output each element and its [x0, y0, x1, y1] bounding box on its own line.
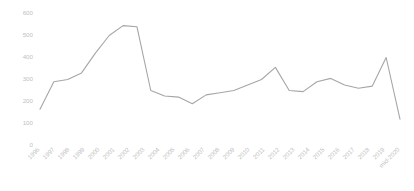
x-axis-tick-label: 2013 — [281, 145, 296, 160]
x-axis-tick-label: 1996 — [26, 145, 41, 160]
chart-canvas: 0100200300400500600 19961997199819992000… — [0, 0, 414, 191]
x-axis-tick-label: 1999 — [71, 145, 86, 160]
series-line — [40, 26, 400, 120]
x-axis-tick-label: 2002 — [116, 145, 131, 160]
x-axis-tick-label: 2005 — [161, 145, 176, 160]
x-axis-tick-label: 2003 — [131, 145, 146, 160]
y-axis: 0100200300400500600 — [23, 9, 34, 148]
x-axis-tick-label: 2007 — [191, 145, 206, 160]
y-axis-tick-label: 400 — [23, 53, 34, 60]
y-axis-tick-label: 0 — [30, 141, 34, 148]
y-axis-tick-label: 300 — [23, 75, 34, 82]
x-axis-tick-label: 2015 — [311, 145, 326, 160]
y-axis-tick-label: 200 — [23, 97, 34, 104]
x-axis: 1996199719981999200020012002200320042005… — [26, 145, 401, 169]
x-axis-tick-label: 2016 — [326, 145, 341, 160]
x-axis-tick-label: 2018 — [356, 145, 371, 160]
x-axis-tick-label: 1998 — [56, 145, 71, 160]
x-axis-tick-label: 2011 — [251, 145, 266, 160]
line-chart: 0100200300400500600 19961997199819992000… — [0, 0, 414, 191]
y-axis-tick-label: 600 — [23, 9, 34, 16]
x-axis-tick-label: 2010 — [236, 145, 251, 160]
x-axis-tick-label: 2012 — [266, 145, 281, 160]
x-axis-tick-label: 2014 — [296, 145, 311, 160]
x-axis-tick-label: 1997 — [41, 145, 56, 160]
x-axis-tick-label: 2004 — [146, 145, 161, 160]
x-axis-tick-label: 2017 — [341, 145, 356, 160]
x-axis-tick-label: 2008 — [206, 145, 221, 160]
y-axis-tick-label: 100 — [23, 119, 34, 126]
data-series — [40, 26, 400, 120]
x-axis-tick-label: 2006 — [176, 145, 191, 160]
x-axis-tick-label: 2009 — [221, 145, 236, 160]
x-axis-tick-label: 2000 — [86, 145, 101, 160]
y-axis-tick-label: 500 — [23, 31, 34, 38]
x-axis-tick-label: 2001 — [101, 145, 116, 160]
